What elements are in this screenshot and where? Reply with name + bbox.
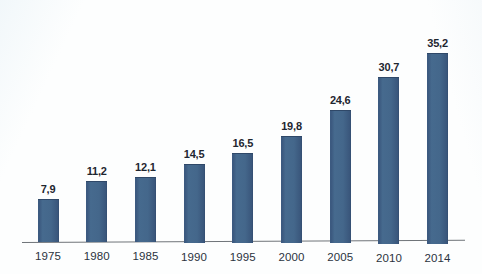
bar: [86, 181, 107, 242]
x-axis-tick-label: 1985: [119, 250, 171, 262]
bar: [427, 53, 448, 244]
x-axis-tick-label: 2000: [266, 251, 318, 263]
bar-value-label: 19,8: [268, 120, 316, 132]
bar: [184, 164, 205, 243]
bar: [378, 77, 399, 244]
bar: [38, 199, 59, 242]
bar: [135, 177, 156, 243]
bar-value-label: 12,1: [121, 161, 169, 173]
bar-value-label: 16,5: [219, 137, 267, 149]
x-axis-tick-label: 1980: [71, 250, 123, 262]
bar-value-label: 11,2: [73, 165, 121, 177]
bar-value-label: 35,2: [414, 37, 462, 49]
bar-value-label: 30,7: [365, 61, 413, 73]
bar-chart: 7,9197511,2198012,1198514,5199016,519951…: [0, 0, 482, 274]
x-axis-tick-label: 2014: [412, 252, 464, 264]
bar: [281, 136, 302, 244]
x-axis-tick-label: 1990: [168, 251, 220, 263]
bar-value-label: 24,6: [316, 94, 364, 106]
x-axis-tick-label: 2010: [363, 252, 415, 264]
bar-value-label: 7,9: [24, 183, 72, 195]
plot-area: 7,9197511,2198012,1198514,5199016,519951…: [0, 0, 482, 274]
x-axis-tick-label: 2005: [314, 251, 366, 263]
bar: [330, 110, 351, 244]
x-axis-tick-label: 1995: [217, 251, 269, 263]
x-axis-tick-label: 1975: [22, 250, 74, 262]
bar: [232, 153, 253, 243]
bar-value-label: 14,5: [170, 148, 218, 160]
